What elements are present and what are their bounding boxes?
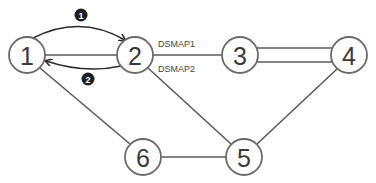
node-5-label: 5	[237, 144, 251, 172]
node-3: 3	[222, 37, 258, 73]
node-2-label: 2	[128, 42, 142, 70]
step-badge-1: 1	[75, 9, 88, 22]
node-5: 5	[226, 139, 262, 175]
edge-label-dsmap1: DSMAP1	[158, 39, 195, 49]
node-2: 2	[117, 37, 153, 73]
node-3-label: 3	[233, 42, 247, 70]
node-1: 1	[9, 37, 45, 73]
step-badge-1-text: 1	[78, 11, 83, 21]
edge-label-dsmap2: DSMAP2	[158, 64, 195, 74]
node-1-label: 1	[20, 42, 34, 70]
edge-4-5	[257, 69, 337, 144]
step-badge-2: 2	[82, 73, 95, 86]
arrow-step-1	[33, 26, 125, 40]
network-diagram: 1 2 DSMAP1 DSMAP2 1 2 3 4 5 6	[0, 0, 376, 183]
node-4-label: 4	[342, 42, 356, 70]
arrow-step-2	[46, 61, 121, 69]
node-4: 4	[331, 37, 367, 73]
step-badge-2-text: 2	[85, 75, 90, 85]
edge-2-5	[148, 68, 231, 144]
node-6: 6	[125, 139, 161, 175]
node-6-label: 6	[136, 144, 150, 172]
